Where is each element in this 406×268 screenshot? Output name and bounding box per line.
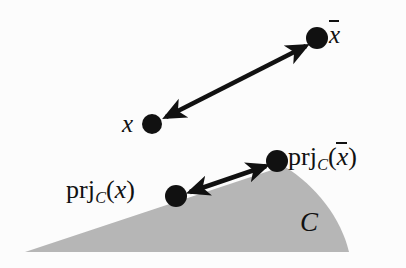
- label-point-x-bar: x: [329, 22, 340, 47]
- paren-open: (: [328, 142, 337, 171]
- prj-argument-x: x: [115, 175, 127, 204]
- set-name-text: C: [300, 207, 318, 237]
- label-set-c: C: [300, 209, 318, 236]
- paren-close: ): [348, 142, 357, 171]
- arrow-x-to-xbar: [166, 46, 306, 117]
- prj-subscript-text: C: [317, 156, 328, 173]
- prj-operator-text: prj: [66, 175, 95, 204]
- prj-argument-x-bar: x: [337, 144, 349, 170]
- point-x: [142, 114, 162, 134]
- paren-close: ): [126, 175, 135, 204]
- point-prj-x: [165, 185, 187, 207]
- label-x-text: x: [122, 110, 133, 137]
- projection-diagram: x x prjC(x) prjC(x) C: [0, 0, 406, 268]
- point-x-bar: [306, 27, 328, 49]
- prj-subscript-text: C: [95, 189, 106, 206]
- paren-open: (: [106, 175, 115, 204]
- label-x-bar-text: x: [329, 22, 340, 47]
- label-prj-x: prjC(x): [66, 177, 135, 206]
- label-prj-x-bar: prjC(x): [288, 144, 357, 173]
- diagram-canvas: [0, 0, 406, 268]
- prj-operator-text: prj: [288, 142, 317, 171]
- label-point-x: x: [122, 111, 133, 136]
- point-prj-x-bar: [266, 150, 288, 172]
